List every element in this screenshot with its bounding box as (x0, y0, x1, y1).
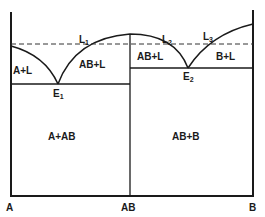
phase-diagram: A+L AB+L AB+L B+L A+AB AB+B E1 E2 L1 L2 … (0, 0, 265, 217)
region-ab-plus-b: AB+B (172, 131, 200, 142)
region-ab-plus-l-left: AB+L (79, 59, 105, 70)
point-e2: E2 (183, 71, 194, 83)
point-l1: L1 (79, 34, 89, 46)
point-l2: L2 (162, 34, 172, 46)
region-b-plus-l: B+L (216, 51, 235, 62)
point-l3: L3 (203, 31, 213, 43)
axis-label-b: B (249, 202, 256, 213)
region-a-plus-l: A+L (13, 65, 32, 76)
region-a-plus-ab: A+AB (48, 131, 76, 142)
point-e1: E1 (53, 88, 64, 100)
axis-label-a: A (6, 202, 13, 213)
region-ab-plus-l-right: AB+L (137, 51, 163, 62)
axis-label-ab: AB (121, 202, 135, 213)
